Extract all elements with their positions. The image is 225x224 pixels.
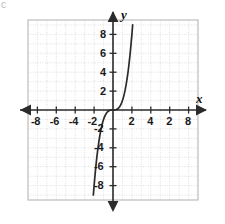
y-tick-label: 4 (100, 67, 106, 78)
y-tick-label: 6 (100, 48, 106, 59)
y-axis-bottom-arrowhead (108, 201, 119, 212)
x-axis-title: x (196, 92, 203, 105)
y-tick-label: -8 (94, 180, 103, 191)
graph-canvas (0, 0, 225, 224)
x-tick-label: 4 (147, 116, 153, 127)
x-tick-label: 8 (185, 116, 191, 127)
x-tick-label: -4 (69, 116, 78, 127)
coordinate-plane-figure: c y x -8-6-4-22428 8642-2-4-6-8 (0, 0, 225, 224)
y-axis-title: y (121, 8, 127, 21)
y-tick-label: -2 (94, 123, 103, 134)
x-tick-label: 2 (166, 116, 172, 127)
y-axis-top-arrowhead (108, 11, 119, 22)
x-tick-label: -6 (50, 116, 59, 127)
x-tick-label: 2 (128, 116, 134, 127)
x-tick-label: -8 (31, 116, 40, 127)
y-tick-label: -4 (94, 142, 103, 153)
x-axis-left-arrowhead (20, 105, 31, 116)
x-axis-right-arrowhead (196, 105, 207, 116)
y-tick-label: -6 (94, 161, 103, 172)
y-tick-label: 2 (100, 86, 106, 97)
y-tick-label: 8 (100, 29, 106, 40)
